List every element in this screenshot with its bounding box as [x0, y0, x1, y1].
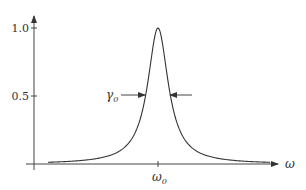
x-axis-label: ω [285, 157, 295, 171]
x-tick-label-omega0: ω0 [152, 170, 167, 186]
resonance-curve [48, 28, 270, 162]
linewidth-label: γ0 [106, 88, 118, 104]
y-tick-label-half: 0.5 [12, 90, 30, 103]
resonance-figure: 1.0 0.5 ω0 ω γ0 [0, 0, 306, 190]
y-tick-label-1: 1.0 [12, 22, 30, 35]
